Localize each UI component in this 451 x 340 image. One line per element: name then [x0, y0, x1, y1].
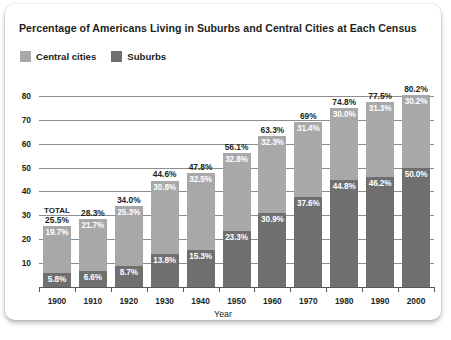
x-axis-title: Year — [5, 309, 441, 319]
bar-segment-suburbs: 37.6% — [294, 197, 322, 287]
bar-segment-suburbs: 15.3% — [187, 250, 215, 287]
chart-card: Percentage of Americans Living in Suburb… — [5, 4, 441, 320]
bar-segment-label: 31.4% — [294, 124, 322, 133]
bar-segment-label: 50.0% — [402, 170, 430, 179]
legend-swatch-icon — [20, 51, 31, 62]
bar-1990: 31.3%46.2% — [366, 102, 394, 287]
bar-segment-label: 13.8% — [151, 256, 179, 265]
bar-segment-label: 23.3% — [223, 233, 251, 242]
x-axis-tick-label: 1930 — [145, 296, 185, 306]
bar-segment-central-cities: 30.8% — [151, 181, 179, 255]
bar-segment-label: 6.6% — [79, 273, 107, 282]
bar-total-label: 77.5% — [362, 91, 398, 101]
bar-segment-central-cities: 30.0% — [330, 108, 358, 180]
bar-segment-central-cities: 25.3% — [115, 206, 143, 266]
bar-1980: 30.0%44.8% — [330, 108, 358, 287]
bar-segment-label: 32.3% — [258, 138, 286, 147]
bar-segment-label: 19.7% — [43, 228, 71, 237]
total-annotation: TOTAL — [39, 206, 75, 215]
x-axis-tick — [75, 287, 76, 292]
bar-total-label: 44.6% — [147, 169, 183, 179]
bar-segment-suburbs: 46.2% — [366, 177, 394, 287]
bar-segment-central-cities: 32.8% — [223, 153, 251, 231]
bar-segment-suburbs: 8.7% — [115, 266, 143, 287]
bar-segment-label: 15.3% — [187, 252, 215, 261]
x-axis-tick-label: 1980 — [324, 296, 364, 306]
bar-1930: 30.8%13.8% — [151, 181, 179, 288]
y-axis-tick-label: 10 — [13, 258, 31, 268]
y-axis-tick-label: 50 — [13, 163, 31, 173]
bar-total-label: 63.3% — [254, 125, 290, 135]
bar-segment-label: 5.8% — [43, 275, 71, 284]
x-axis-tick-label: 1990 — [360, 296, 400, 306]
x-axis-tick — [326, 287, 327, 292]
y-axis-tick-label: 30 — [13, 210, 31, 220]
bar-segment-label: 32.8% — [223, 155, 251, 164]
x-axis-tick — [434, 287, 435, 292]
bar-segment-central-cities: 32.3% — [258, 136, 286, 213]
bar-segment-central-cities: 32.5% — [187, 173, 215, 251]
x-axis-tick — [183, 287, 184, 292]
chart-title: Percentage of Americans Living in Suburb… — [19, 22, 417, 34]
bar-segment-label: 46.2% — [366, 179, 394, 188]
bar-total-label: 47.8% — [183, 162, 219, 172]
bar-1900: 19.7%5.8% — [43, 226, 71, 287]
bar-segment-suburbs: 13.8% — [151, 254, 179, 287]
x-axis-tick-label: 2000 — [396, 296, 436, 306]
bar-segment-label: 30.9% — [258, 215, 286, 224]
y-axis-tick-label: 60 — [13, 139, 31, 149]
bar-total-label: 25.5% — [39, 215, 75, 225]
x-axis-tick — [111, 287, 112, 292]
bar-1970: 31.4%37.6% — [294, 122, 322, 287]
legend-item-central-cities: Central cities — [20, 51, 96, 62]
x-axis-tick — [219, 287, 220, 292]
x-axis-tick-label: 1960 — [252, 296, 292, 306]
bar-segment-label: 30.2% — [402, 97, 430, 106]
bar-total-label: 34.0% — [111, 195, 147, 205]
bar-total-label: 80.2% — [398, 84, 434, 94]
x-axis-tick-label: 1940 — [181, 296, 221, 306]
bar-1940: 32.5%15.3% — [187, 173, 215, 287]
bar-segment-suburbs: 5.8% — [43, 273, 71, 287]
bar-1950: 32.8%23.3% — [223, 153, 251, 287]
bar-segment-label: 21.7% — [79, 221, 107, 230]
bar-segment-suburbs: 44.8% — [330, 180, 358, 287]
x-axis-tick — [254, 287, 255, 292]
bar-1910: 21.7%6.6% — [79, 219, 107, 287]
bar-2000: 30.2%50.0% — [402, 95, 430, 287]
bar-segment-label: 8.7% — [115, 268, 143, 277]
bar-segment-suburbs: 50.0% — [402, 168, 430, 287]
x-axis-tick-label: 1950 — [217, 296, 257, 306]
plot-area: 19.7%5.8%25.5%TOTAL21.7%6.6%28.3%25.3%8.… — [39, 84, 434, 287]
bar-segment-central-cities: 31.3% — [366, 102, 394, 177]
bar-segment-label: 30.8% — [151, 183, 179, 192]
legend-item-suburbs: Suburbs — [111, 51, 166, 62]
bar-segment-label: 32.5% — [187, 175, 215, 184]
bar-segment-suburbs: 6.6% — [79, 271, 107, 287]
bar-total-label: 69% — [290, 111, 326, 121]
x-axis-tick — [398, 287, 399, 292]
y-axis-tick-label: 80 — [13, 91, 31, 101]
bar-segment-central-cities: 21.7% — [79, 219, 107, 271]
bar-1920: 25.3%8.7% — [115, 206, 143, 287]
bar-segment-central-cities: 19.7% — [43, 226, 71, 273]
y-axis-tick-label: 20 — [13, 234, 31, 244]
x-axis-tick — [362, 287, 363, 292]
bar-segment-central-cities: 30.2% — [402, 95, 430, 167]
bar-segment-label: 37.6% — [294, 199, 322, 208]
x-axis-line — [39, 287, 434, 288]
bar-total-label: 28.3% — [75, 208, 111, 218]
y-axis-tick-label: 40 — [13, 186, 31, 196]
bar-segment-label: 31.3% — [366, 104, 394, 113]
legend-swatch-icon — [111, 51, 122, 62]
bar-segment-label: 44.8% — [330, 182, 358, 191]
bar-segment-central-cities: 31.4% — [294, 122, 322, 197]
bar-1960: 32.3%30.9% — [258, 136, 286, 287]
x-axis-tick — [290, 287, 291, 292]
chart-legend: Central citiesSuburbs — [20, 51, 174, 62]
x-axis-tick-label: 1900 — [37, 296, 77, 306]
bar-segment-suburbs: 30.9% — [258, 213, 286, 287]
bar-segment-label: 25.3% — [115, 208, 143, 217]
legend-label: Central cities — [36, 51, 96, 62]
bar-total-label: 56.1% — [219, 142, 255, 152]
